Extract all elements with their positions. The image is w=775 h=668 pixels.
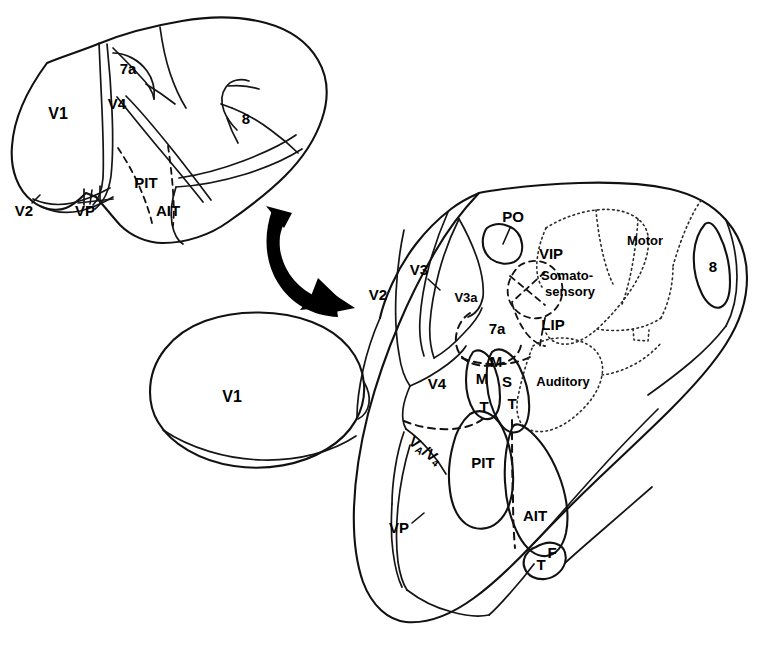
flat-label-mt-m: M xyxy=(476,370,489,387)
lunate-sulcus xyxy=(93,43,103,205)
flat-label-tf-t: T xyxy=(536,556,545,573)
leader-vp-flat xyxy=(412,513,424,523)
sylvian-fissure-lower xyxy=(176,149,302,187)
brain-areas-diagram: V1 V2 VP V4 7a PIT AIT 8 V1 xyxy=(0,0,775,668)
v1-flattened-oval: V1 xyxy=(150,312,364,467)
dotted-divide-4 xyxy=(661,266,673,318)
flat-label-auditory: Auditory xyxy=(536,374,590,389)
dotted-divide-step xyxy=(633,329,649,341)
lip-region xyxy=(512,303,545,346)
flat-label-v3a: V3a xyxy=(454,290,478,305)
flat-label-mst-s: S xyxy=(502,373,512,390)
right-edge-fold xyxy=(726,220,737,326)
lateral-label-vp: VP xyxy=(75,202,95,219)
arcuate-sulcus-arm xyxy=(228,86,259,89)
flat-label-v4: V4 xyxy=(428,375,447,392)
lateral-label-v2: V2 xyxy=(15,202,33,219)
flat-label-7a: 7a xyxy=(489,320,506,337)
v1-border-line xyxy=(95,44,113,209)
flat-label-vp: VP xyxy=(389,519,409,536)
lateral-label-v1: V1 xyxy=(48,105,68,122)
flat-label-lip: LIP xyxy=(541,316,564,333)
lateral-label-ait: AIT xyxy=(156,202,180,219)
leader-v3 xyxy=(428,279,440,290)
dotted-divide-3 xyxy=(597,318,661,331)
flat-label-ait: AIT xyxy=(523,507,547,524)
flat-label-somatosensory-line1: Somato- xyxy=(541,268,593,283)
va-v4-lower xyxy=(392,432,404,504)
flat-label-somatosensory-line2: sensory xyxy=(545,284,596,299)
vp-strip-inner xyxy=(397,445,411,590)
v2-inner-boundary xyxy=(396,230,410,386)
dotted-divide-2 xyxy=(621,219,638,307)
lateral-label-7a: 7a xyxy=(120,60,137,77)
vip-divider xyxy=(510,276,545,305)
flat-label-tf-f: F xyxy=(547,544,556,561)
lateral-label-pit: PIT xyxy=(134,174,157,191)
v4-lower-dashed xyxy=(404,418,484,429)
v3-strip-inner xyxy=(430,219,459,358)
v1-oval-label: V1 xyxy=(222,388,242,405)
dotted-auditory-right xyxy=(602,343,661,375)
flat-label-pit: PIT xyxy=(471,454,494,471)
lateral-label-v4: V4 xyxy=(108,95,127,112)
lateral-label-8: 8 xyxy=(242,110,250,127)
flat-label-v2: V2 xyxy=(369,286,387,303)
v1-oval-lower-edge xyxy=(163,430,356,460)
transform-arrow xyxy=(266,206,355,317)
dotted-divide-1 xyxy=(596,210,613,284)
figure-root: V1 V2 VP V4 7a PIT AIT 8 V1 xyxy=(0,0,775,668)
leader-po xyxy=(503,228,510,244)
flattened-cortical-map: V2 V3 V3a PO VIP Somato- sensory LIP 7a … xyxy=(354,183,747,623)
flat-label-mst-t: T xyxy=(507,395,516,412)
lower-fold-center xyxy=(489,564,534,615)
flat-label-8: 8 xyxy=(709,258,717,275)
ips-branch xyxy=(146,84,175,104)
flat-label-mst-m: M xyxy=(490,353,503,370)
flat-label-motor: Motor xyxy=(627,233,663,248)
flat-label-po: PO xyxy=(502,208,524,225)
flat-label-v3: V3 xyxy=(410,261,428,278)
flat-label-mt-t: T xyxy=(479,398,488,415)
lower-fold-left xyxy=(407,590,489,616)
v1-oval-outline xyxy=(150,312,364,467)
flat-label-vip: VIP xyxy=(539,245,563,262)
